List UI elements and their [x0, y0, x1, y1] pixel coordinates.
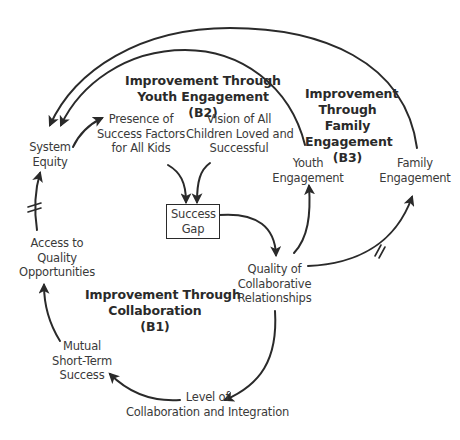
loop-title-line: Improvement Through [118, 73, 288, 89]
node-label-line: Opportunities [12, 265, 102, 280]
node-label-line: Equity [20, 155, 80, 170]
loop-title-line: Collaboration [85, 303, 225, 319]
node-label-line: Collaboration and Integration [120, 405, 295, 420]
node-system-equity: System Equity [20, 140, 80, 169]
node-youth-engagement: Youth Engagement [268, 156, 348, 185]
node-label-line: Presence of [96, 112, 186, 127]
link-presence-to-success-gap [168, 165, 186, 202]
node-level-collab-integration: Level of Collaboration and Integration [120, 390, 295, 419]
node-label-line: Engagement [375, 171, 455, 186]
link-quality-to-family [308, 197, 412, 266]
loop-title-line: Improvement [305, 86, 390, 102]
link-vision-to-success-gap [197, 163, 210, 202]
node-label-line: Level of [120, 390, 295, 405]
node-label-line: Gap [171, 222, 215, 237]
node-label-line: Collaborative [227, 277, 322, 292]
loop-title-line: Through [305, 102, 390, 118]
node-label-line: System [20, 140, 80, 155]
link-mutual-to-access [44, 285, 60, 341]
node-label-line: Children Loved and [186, 127, 292, 142]
loop-title-line: Improvement Through [85, 287, 225, 303]
link-quality-to-youth [294, 186, 310, 253]
node-access-quality-opportunities: Access to Quality Opportunities [12, 236, 102, 280]
link-quality-to-level [225, 311, 275, 400]
node-mutual-short-term-success: Mutual Short-Term Success [42, 339, 122, 383]
node-label-line: Youth [268, 156, 348, 171]
node-family-engagement: Family Engagement [375, 156, 455, 185]
node-label-line: Quality of [227, 262, 322, 277]
node-label-line: Short-Term [42, 354, 122, 369]
loop-title-line: Family [305, 118, 390, 134]
link-success-gap-to-quality [219, 215, 276, 255]
delay-mark-icon [375, 245, 385, 258]
node-label-line: Family [375, 156, 455, 171]
node-vision-all-children: Vision of All Children Loved and Success… [186, 112, 292, 156]
node-success-gap: Success Gap [166, 204, 220, 239]
link-access-to-system-equity [35, 173, 40, 230]
node-label-line: Success [171, 207, 215, 222]
node-presence-success-factors: Presence of Success Factors for All Kids [96, 112, 186, 156]
loop-title-line: Youth Engagement [118, 89, 288, 105]
node-label-line: Vision of All [186, 112, 292, 127]
loop-title-line: Engagement [305, 134, 390, 150]
node-label-line: Successful [186, 141, 292, 156]
loop-title-line: (B1) [85, 319, 225, 335]
node-label-line: Mutual [42, 339, 122, 354]
loop-title-b1: Improvement Through Collaboration (B1) [85, 287, 225, 335]
node-label-line: Quality [12, 251, 102, 266]
node-label-line: for All Kids [96, 141, 186, 156]
node-label-line: Success Factors [96, 127, 186, 142]
node-label-line: Success [42, 368, 122, 383]
node-label-line: Relationships [227, 291, 322, 306]
node-quality-collab-relationships: Quality of Collaborative Relationships [227, 262, 322, 306]
loop-title-b3: Improvement Through Family Engagement (B… [305, 86, 390, 166]
node-label-line: Engagement [268, 171, 348, 186]
node-label-line: Access to [12, 236, 102, 251]
